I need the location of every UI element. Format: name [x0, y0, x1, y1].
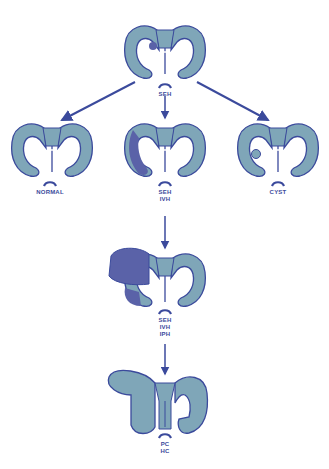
label-line: SEH: [145, 91, 185, 98]
label-normal: NORMAL: [30, 189, 70, 196]
brain-cyst: [238, 124, 319, 176]
label-line: HC: [145, 448, 185, 455]
label-line: CYST: [258, 189, 298, 196]
arch-icon: [159, 310, 171, 314]
label-line: SEH: [145, 189, 185, 196]
arch-icon: [159, 182, 171, 186]
label-line: IPH: [145, 331, 185, 338]
arrow-to-normal: [62, 82, 135, 120]
label-seh-ivh-iph: SEH IVH IPH: [145, 317, 185, 338]
arch-icon: [159, 84, 171, 88]
brain-top: [125, 26, 206, 78]
label-top: SEH: [145, 91, 185, 98]
label-line: NORMAL: [30, 189, 70, 196]
label-line: SEH: [145, 317, 185, 324]
label-line: PC: [145, 441, 185, 448]
arrow-to-cyst: [197, 82, 268, 120]
brain-normal: [12, 124, 93, 176]
brain-seh-ivh-iph: [109, 248, 205, 306]
label-pc-hc: PC HC: [145, 441, 185, 455]
label-seh-ivh: SEH IVH: [145, 189, 185, 203]
arch-icon: [159, 434, 171, 438]
label-line: IVH: [145, 324, 185, 331]
arch-icon: [44, 182, 56, 186]
brain-pc-hc: [108, 370, 207, 433]
brain-seh-ivh: [125, 124, 206, 176]
arch-icon: [272, 182, 284, 186]
label-cyst: CYST: [258, 189, 298, 196]
label-line: IVH: [145, 196, 185, 203]
ventricle-progression-diagram: [0, 0, 329, 469]
